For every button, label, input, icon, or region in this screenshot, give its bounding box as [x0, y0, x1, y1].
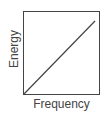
y-axis-label: Energy — [7, 30, 21, 68]
x-axis-label: Frequency — [23, 97, 100, 111]
